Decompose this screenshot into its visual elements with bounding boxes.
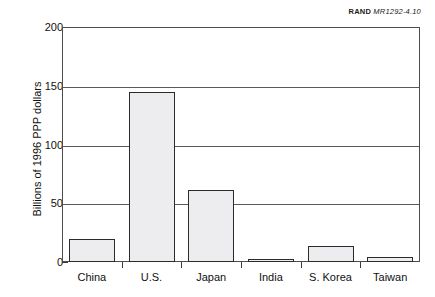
y-tick-label: 100: [19, 139, 63, 151]
bar-series: [62, 27, 420, 262]
x-tick-mark: [301, 262, 302, 268]
bar-slot: [188, 27, 234, 262]
x-tick-mark: [122, 262, 123, 268]
bar: [308, 246, 354, 262]
y-tick-mark: [62, 262, 68, 263]
figure-credit: RAND MR1292-4.10: [349, 7, 421, 16]
x-tick-label: S. Korea: [301, 271, 361, 283]
bar-slot: [69, 27, 115, 262]
bar-slot: [308, 27, 354, 262]
x-tick-mark: [360, 262, 361, 268]
bar-slot: [129, 27, 175, 262]
figure-credit-brand: RAND: [349, 7, 371, 16]
bar: [367, 257, 413, 262]
bar-slot: [248, 27, 294, 262]
figure-credit-code: MR1292-4.10: [373, 7, 421, 16]
x-tick-label: Taiwan: [360, 271, 420, 283]
bar-slot: [367, 27, 413, 262]
y-tick-label: 50: [19, 197, 63, 209]
chart-figure: RAND MR1292-4.10 Billions of 1996 PPP do…: [0, 0, 435, 297]
y-tick-label: 0: [19, 256, 63, 268]
x-tick-label: China: [62, 271, 122, 283]
x-tick-label: Japan: [181, 271, 241, 283]
x-tick-mark: [241, 262, 242, 268]
bar: [69, 239, 115, 263]
bar: [248, 259, 294, 262]
x-tick-label: India: [241, 271, 301, 283]
y-tick-label: 150: [19, 80, 63, 92]
bar: [129, 92, 175, 262]
x-tick-mark: [181, 262, 182, 268]
y-tick-label: 200: [19, 21, 63, 33]
x-tick-label: U.S.: [122, 271, 182, 283]
bar: [188, 190, 234, 262]
